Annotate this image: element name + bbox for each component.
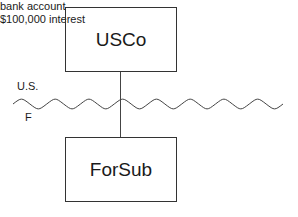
us-jurisdiction-label: U.S. [17, 80, 38, 93]
usco-label: USCo [96, 29, 147, 51]
forsub-label: ForSub [90, 159, 152, 181]
usco-entity-box: USCo [65, 7, 177, 72]
forsub-entity-box: ForSub [65, 137, 177, 202]
border-wave-line [13, 99, 283, 109]
foreign-jurisdiction-label: F [25, 111, 32, 124]
